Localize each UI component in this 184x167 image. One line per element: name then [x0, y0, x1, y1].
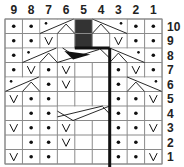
slip-v-icon [149, 153, 157, 161]
chart-cell-dot [12, 53, 16, 57]
purl-dot-icon [134, 24, 138, 28]
repeat-boundary-line [108, 48, 111, 167]
chart-cell-slip [149, 95, 157, 103]
chart-cell-dot [134, 97, 138, 101]
column-label: 8 [28, 3, 35, 17]
purl-dot-icon [117, 82, 121, 86]
chart-cell-dot [117, 140, 121, 144]
slip-v-icon [45, 37, 53, 45]
column-label: 5 [80, 3, 87, 17]
chart-cell-dot [47, 140, 51, 144]
purl-dot-icon [47, 140, 51, 144]
no-stitch-block [75, 34, 92, 49]
row-label: 1 [167, 150, 174, 164]
chart-cell-dot [134, 126, 138, 130]
column-label: 7 [45, 3, 52, 17]
chart-cell-dot [134, 140, 138, 144]
chart-cell-slip [149, 124, 157, 132]
purl-dot-icon [29, 155, 33, 159]
slip-v-icon [10, 124, 18, 132]
row-labels: 10987654321 [167, 20, 181, 165]
purl-dot-icon [134, 39, 138, 43]
chart-cell-dot [134, 24, 138, 28]
chart-cell-dot [29, 24, 33, 28]
chart-cell-dot [117, 82, 121, 86]
row-label: 3 [167, 121, 174, 135]
chart-cell-slip [62, 66, 70, 74]
chart-cell-slip [62, 139, 70, 147]
chart-cell-dot [134, 39, 138, 43]
column-label: 9 [10, 3, 17, 17]
column-label: 3 [115, 3, 122, 17]
chart-cell-dark [75, 34, 92, 49]
purl-dot-icon [134, 155, 138, 159]
chart-cell-dot [47, 68, 51, 72]
knitting-chart: 987654321 10987654321 [0, 0, 184, 167]
purl-dot-icon [12, 53, 16, 57]
slip-v-icon [27, 66, 35, 74]
chart-cell-dot [47, 126, 51, 130]
chart-cell-slip [149, 153, 157, 161]
chart-cell-dark [75, 19, 92, 34]
chart-cell-dot [152, 39, 156, 43]
no-stitch-block [75, 19, 92, 34]
purl-dot-icon [47, 155, 51, 159]
row-label: 8 [167, 49, 174, 63]
purl-dot-icon [27, 51, 30, 54]
slip-v-icon [62, 139, 70, 147]
chart-cell-dot [29, 97, 33, 101]
purl-dot-icon [29, 111, 33, 115]
column-label: 2 [133, 3, 140, 17]
chart-cell-slip [115, 37, 123, 45]
chart-cell-slip [10, 124, 18, 132]
purl-dot-icon [45, 22, 48, 25]
chart-cell-dot [134, 155, 138, 159]
purl-dot-icon [137, 51, 140, 54]
slip-v-icon [10, 95, 18, 103]
row-label: 4 [167, 107, 174, 121]
row-label: 5 [167, 92, 174, 106]
row-label: 2 [167, 136, 174, 150]
purl-dot-icon [134, 111, 138, 115]
chart-cell-dot [117, 111, 121, 115]
slip-v-icon [149, 95, 157, 103]
purl-dot-icon [12, 24, 16, 28]
chart-cell-slip [132, 66, 140, 74]
slip-v-icon [149, 124, 157, 132]
slip-v-icon [115, 37, 123, 45]
column-label: 4 [98, 3, 105, 17]
column-labels: 987654321 [10, 3, 157, 17]
purl-dot-icon [47, 82, 51, 86]
chart-cell-dot [152, 53, 156, 57]
purl-dot-icon [134, 97, 138, 101]
chart-cell-slip [62, 81, 70, 89]
purl-dot-icon [117, 155, 121, 159]
purl-dot-icon [152, 39, 156, 43]
chart-cell-dot [12, 39, 16, 43]
chart-cell-dot [29, 39, 33, 43]
purl-dot-icon [12, 68, 16, 72]
chart-cell-dot [117, 97, 121, 101]
slip-v-icon [62, 124, 70, 132]
chart-cell-dot [47, 155, 51, 159]
slip-v-icon [132, 66, 140, 74]
chart-cell-dot [152, 68, 156, 72]
slip-v-icon [62, 81, 70, 89]
chart-cell-dot [47, 82, 51, 86]
chart-cell-dot [117, 68, 121, 72]
purl-dot-icon [29, 39, 33, 43]
row-label: 7 [167, 63, 174, 77]
chart-cell-slip [10, 95, 18, 103]
purl-dot-icon [155, 80, 158, 83]
purl-dot-icon [29, 126, 33, 130]
chart-cell-dot [29, 111, 33, 115]
purl-dot-icon [117, 68, 121, 72]
chart-cell-dot [47, 111, 51, 115]
purl-dot-icon [47, 97, 51, 101]
chart-cell-dot [47, 97, 51, 101]
purl-dot-icon [29, 24, 33, 28]
chart-cell-dot [12, 68, 16, 72]
purl-dot-icon [29, 97, 33, 101]
purl-dot-icon [117, 97, 121, 101]
chart-cell-dot [29, 155, 33, 159]
